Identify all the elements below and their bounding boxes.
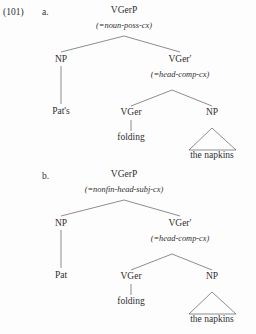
triangle-b-the-napkins (189, 292, 236, 314)
leaf-a-complement: the napkins (190, 151, 234, 161)
tree-connectors (0, 0, 256, 334)
leaf-a-head-verb: folding (117, 133, 144, 143)
node-a-np-label: NP (55, 55, 67, 65)
example-marker-b: b. (42, 172, 49, 182)
node-b-root-label: VGerP (111, 170, 137, 180)
example-marker-a: a. (42, 8, 49, 18)
edge-a-vgerbar-np (172, 90, 212, 106)
edge-a-root-np (61, 36, 124, 52)
node-b-np-label: NP (55, 219, 67, 229)
edge-b-vgerbar-np (172, 254, 212, 270)
node-a-root-construction: (=noun-poss-cx) (96, 22, 152, 30)
leaf-b-complement: the napkins (190, 315, 234, 325)
node-b-root-construction: (=nonfin-head-subj-cx) (85, 186, 164, 194)
edge-a-root-vgerbar (124, 36, 180, 52)
node-b-vger-label: VGer (120, 272, 141, 282)
triangle-a-the-napkins (189, 128, 236, 150)
node-a-root-label: VGerP (111, 6, 137, 16)
node-b-vgerbar-construction: (=head-comp-cx) (151, 235, 210, 243)
edge-b-root-vgerbar (124, 200, 180, 216)
leaf-b-subject: Pat (55, 271, 67, 281)
example-number: (101) (3, 8, 24, 18)
edge-a-vgerbar-vger (131, 90, 172, 106)
edge-b-root-np (61, 200, 124, 216)
node-b-vgerbar-label: VGer′ (168, 219, 191, 229)
node-a-comp-np-label: NP (206, 108, 218, 118)
leaf-a-subject: Pat's (52, 107, 70, 117)
node-a-vgerbar-label: VGer′ (168, 55, 191, 65)
node-a-vger-label: VGer (120, 108, 141, 118)
leaf-b-head-verb: folding (117, 297, 144, 307)
example-figure: (101) a. VGerP (=noun-poss-cx) NP VGer′ … (0, 0, 256, 334)
node-a-vgerbar-construction: (=head-comp-cx) (151, 71, 210, 79)
edge-b-vgerbar-vger (131, 254, 172, 270)
node-b-comp-np-label: NP (206, 272, 218, 282)
